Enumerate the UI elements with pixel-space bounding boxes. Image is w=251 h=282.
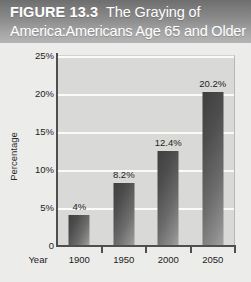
bar-slot: 12.4% bbox=[146, 56, 191, 245]
x-axis-tick bbox=[145, 245, 147, 253]
y-tick-label: 15% bbox=[16, 126, 54, 137]
y-tick-label: 10% bbox=[16, 164, 54, 175]
figure-number: FIGURE 13.3 bbox=[10, 4, 98, 20]
caption-line-1: FIGURE 13.3 The Graying of bbox=[10, 3, 243, 22]
bar-value-label: 12.4% bbox=[155, 137, 182, 148]
y-axis-line bbox=[56, 53, 58, 247]
chart-body: Percentage 25% 20% 15% 10% 5% 0 4% bbox=[0, 43, 251, 282]
x-axis-tick bbox=[190, 245, 192, 253]
bar-1950[interactable] bbox=[113, 183, 134, 245]
caption-spacer bbox=[98, 4, 106, 20]
figure-caption-band: FIGURE 13.3 The Graying of America:Ameri… bbox=[0, 0, 251, 43]
bar-slot: 20.2% bbox=[191, 56, 236, 245]
y-tick-label: 0 bbox=[16, 240, 54, 251]
x-tick-label: 1900 bbox=[57, 254, 102, 265]
y-tick-label: 25% bbox=[16, 50, 54, 61]
bar-value-label: 8.2% bbox=[113, 169, 135, 180]
plot-area: 4% 8.2% 12.4% 20.2% bbox=[57, 55, 235, 245]
figure-container: FIGURE 13.3 The Graying of America:Ameri… bbox=[0, 0, 251, 282]
bar-slot: 4% bbox=[57, 56, 102, 245]
figure-title-line-1: The Graying of bbox=[106, 4, 201, 20]
bar-2000[interactable] bbox=[158, 151, 179, 245]
figure-title-line-2: America:Americans Age 65 and Older bbox=[10, 22, 243, 41]
bar-1900[interactable] bbox=[69, 215, 90, 245]
x-tick-label: 1950 bbox=[102, 254, 147, 265]
bar-value-label: 20.2% bbox=[199, 78, 226, 89]
x-axis-tick-labels: 1900 1950 2000 2050 bbox=[57, 254, 235, 270]
bar-series: 4% 8.2% 12.4% 20.2% bbox=[57, 56, 234, 245]
y-tick-label: 20% bbox=[16, 88, 54, 99]
x-tick-label: 2050 bbox=[191, 254, 236, 265]
x-axis-tick bbox=[234, 245, 236, 253]
x-axis-title: Year bbox=[20, 254, 56, 265]
y-tick-label: 5% bbox=[16, 202, 54, 213]
bar-value-label: 4% bbox=[72, 201, 86, 212]
y-axis-tick-labels: 25% 20% 15% 10% 5% 0 bbox=[16, 55, 54, 245]
bar-slot: 8.2% bbox=[102, 56, 147, 245]
x-axis-tick bbox=[101, 245, 103, 253]
bar-2050[interactable] bbox=[202, 92, 223, 246]
x-tick-label: 2000 bbox=[146, 254, 191, 265]
